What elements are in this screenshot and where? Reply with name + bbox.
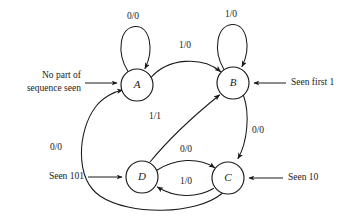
state-node-b[interactable]: B xyxy=(217,67,249,99)
transition-a-self-loop: 0/0 xyxy=(121,11,150,71)
transition-c-to-d: 1/0 xyxy=(158,176,214,195)
state-diagram-figure: 0/0 1/0 1/0 0/0 1/1 0/0 1/ xyxy=(0,0,352,221)
transition-label-c-to-a: 0/0 xyxy=(50,142,62,152)
transition-label-b-self: 1/0 xyxy=(225,9,237,19)
annotation-a-line1: No part of xyxy=(42,70,82,80)
transition-a-to-b: 1/0 xyxy=(151,40,221,77)
transition-b-to-c: 0/0 xyxy=(238,96,264,159)
state-label-b: B xyxy=(230,76,237,88)
transition-label-a-self: 0/0 xyxy=(127,11,139,21)
state-node-a[interactable]: A xyxy=(121,69,153,101)
state-node-c[interactable]: C xyxy=(212,162,244,194)
state-label-a: A xyxy=(133,78,141,90)
transition-label-d-to-c: 0/0 xyxy=(180,144,192,154)
annotation-c-line1: Seen 10 xyxy=(288,172,319,182)
fsm-canvas: 0/0 1/0 1/0 0/0 1/1 0/0 1/ xyxy=(0,0,352,221)
annotation-b: Seen first 1 xyxy=(291,77,335,87)
annotation-c: Seen 10 xyxy=(288,172,319,182)
annotation-a-line2: sequence seen xyxy=(27,83,81,93)
transition-label-c-to-d: 1/0 xyxy=(180,176,192,186)
annotation-b-line1: Seen first 1 xyxy=(291,77,335,87)
state-label-c: C xyxy=(224,171,232,183)
state-node-d[interactable]: D xyxy=(126,161,158,193)
transition-b-self-loop: 1/0 xyxy=(218,9,247,69)
transition-label-d-to-b: 1/1 xyxy=(149,111,161,121)
transition-d-to-c: 0/0 xyxy=(157,144,215,170)
state-label-d: D xyxy=(137,170,146,182)
transition-label-a-to-b: 1/0 xyxy=(179,40,191,50)
transition-label-b-to-c: 0/0 xyxy=(252,125,264,135)
annotation-d: Seen 101 xyxy=(49,171,84,181)
annotation-d-line1: Seen 101 xyxy=(49,171,84,181)
annotation-a: No part of sequence seen xyxy=(27,70,82,93)
